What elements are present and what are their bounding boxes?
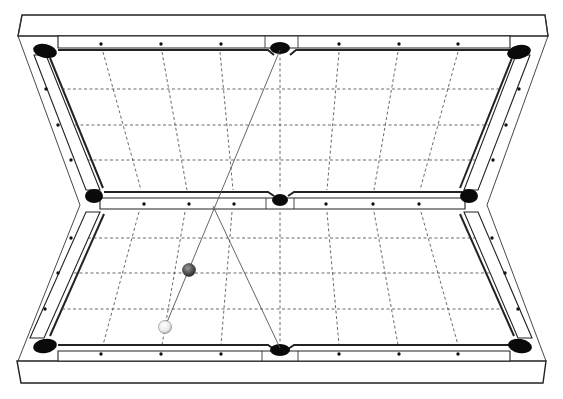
pocket-bottom-right <box>507 337 533 355</box>
object-ball <box>183 264 196 277</box>
pocket-middle-right <box>460 189 478 203</box>
bank-line <box>213 206 280 348</box>
pocket-middle-left <box>85 189 103 203</box>
real-table <box>30 212 533 361</box>
pool-table-diagram <box>0 0 563 399</box>
pocket-top-middle <box>270 42 290 54</box>
pocket-middle-center <box>272 194 288 206</box>
mirrored-table <box>32 36 532 196</box>
cue-ball <box>159 321 172 334</box>
pocket-bottom-middle <box>270 344 290 356</box>
aim-line <box>165 50 280 327</box>
pocket-bottom-left <box>32 337 58 355</box>
